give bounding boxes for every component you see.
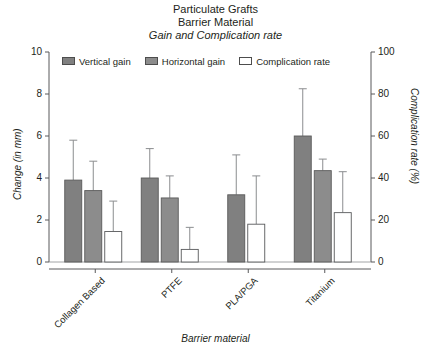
bar-complication-rate xyxy=(181,249,198,262)
y-axis-left-tick-label: 0 xyxy=(0,256,42,267)
bar-complication-rate xyxy=(105,232,122,262)
y-axis-left-tick-label: 6 xyxy=(0,130,42,141)
y-axis-right-tick-label: 0 xyxy=(378,256,384,267)
bar-complication-rate xyxy=(334,213,351,262)
bar-vertical-gain xyxy=(65,180,82,262)
y-axis-right-tick-label: 20 xyxy=(378,214,389,225)
bar-horizontal-gain xyxy=(161,198,178,262)
chart-figure: Particulate Grafts Barrier Material Gain… xyxy=(0,0,431,363)
y-axis-left-tick-label: 10 xyxy=(0,46,42,57)
bar-vertical-gain xyxy=(141,178,158,262)
y-axis-left-tick-label: 4 xyxy=(0,172,42,183)
y-axis-left-tick-label: 8 xyxy=(0,88,42,99)
y-axis-left-tick-label: 2 xyxy=(0,214,42,225)
y-axis-right-tick-label: 80 xyxy=(378,88,389,99)
bar-vertical-gain xyxy=(294,136,311,262)
y-axis-right-tick-label: 40 xyxy=(378,172,389,183)
bar-vertical-gain xyxy=(228,195,245,262)
bar-horizontal-gain xyxy=(314,171,331,262)
y-axis-right-tick-label: 60 xyxy=(378,130,389,141)
bar-complication-rate xyxy=(248,224,265,262)
bar-horizontal-gain xyxy=(85,191,102,262)
y-axis-right-tick-label: 100 xyxy=(378,46,395,57)
